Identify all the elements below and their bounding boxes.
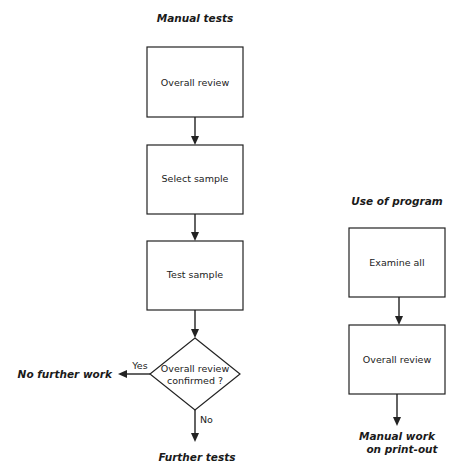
examine-all-label: Examine all	[369, 257, 424, 268]
yes-arrow-head	[118, 370, 127, 378]
select-sample-label: Select sample	[162, 173, 229, 184]
decision-diamond	[150, 338, 240, 410]
manual-work-label-line1: Manual work	[359, 430, 436, 442]
use-of-program-title: Use of program	[351, 195, 443, 207]
manual-tests-title: Manual tests	[157, 12, 233, 24]
program-overall-review-label: Overall review	[363, 354, 432, 365]
no-further-work-label: No further work	[18, 368, 113, 380]
arrow-1-head	[191, 136, 199, 145]
manual-work-label-line2: on print-out	[366, 443, 438, 455]
arrow-4-head	[395, 316, 403, 325]
overall-review-label: Overall review	[161, 77, 230, 88]
decision-label-line2: confirmed ?	[167, 375, 223, 386]
yes-label: Yes	[131, 360, 147, 371]
no-arrow-head	[191, 433, 199, 442]
further-tests-label: Further tests	[159, 451, 236, 463]
decision-label-line1: Overall review	[161, 363, 230, 374]
arrow-5-head	[393, 417, 401, 426]
test-sample-label: Test sample	[166, 269, 223, 280]
arrow-3-head	[191, 329, 199, 338]
flowchart: Manual tests Overall review Select sampl…	[0, 0, 463, 471]
no-label: No	[200, 414, 213, 425]
arrow-2-head	[191, 232, 199, 241]
